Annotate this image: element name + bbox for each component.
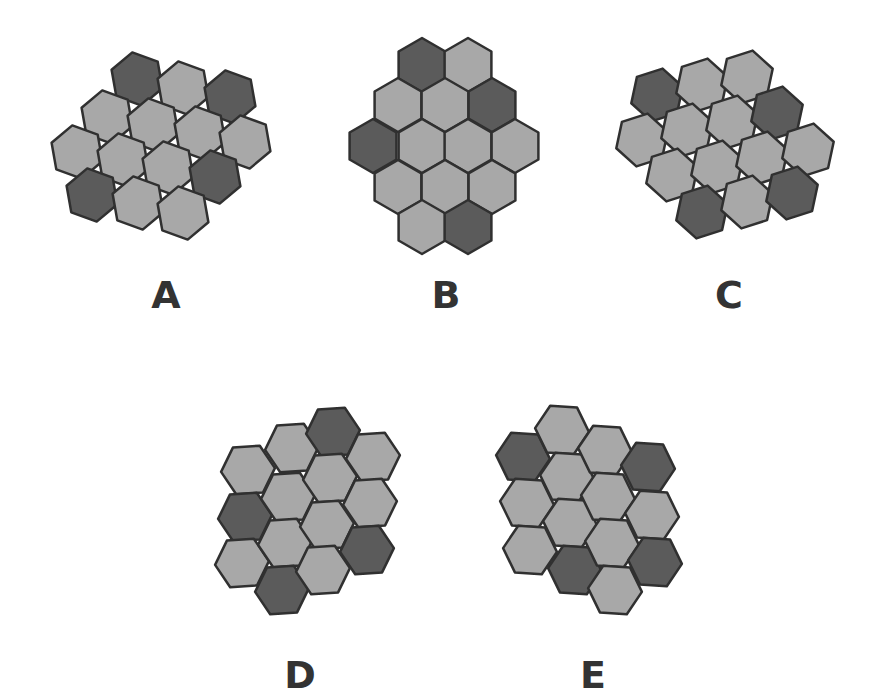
hexagon-light — [399, 200, 446, 254]
hexagon-light — [721, 176, 772, 229]
hexagon-dark — [445, 200, 492, 254]
figure-label-d: D — [284, 656, 316, 694]
figure-b — [350, 38, 539, 254]
figure-e — [496, 406, 682, 615]
figure-label-e: E — [580, 656, 606, 694]
figure-d — [215, 408, 400, 615]
figure-label-c: C — [715, 276, 743, 314]
figure-label-a: A — [151, 276, 180, 314]
hexagon-light — [158, 186, 209, 239]
hexagon-figures-canvas — [0, 0, 880, 698]
figure-label-b: B — [432, 276, 461, 314]
figure-a — [52, 52, 271, 239]
hexagon-dark — [676, 186, 727, 239]
figure-c — [616, 51, 833, 239]
